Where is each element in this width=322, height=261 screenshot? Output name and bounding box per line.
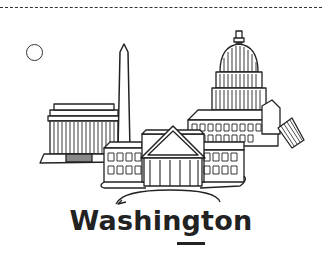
capitol-building-icon [188,31,304,148]
city-name-title: Washington [0,205,322,236]
washington-monument-icon [118,44,130,150]
answer-blank [177,242,205,245]
